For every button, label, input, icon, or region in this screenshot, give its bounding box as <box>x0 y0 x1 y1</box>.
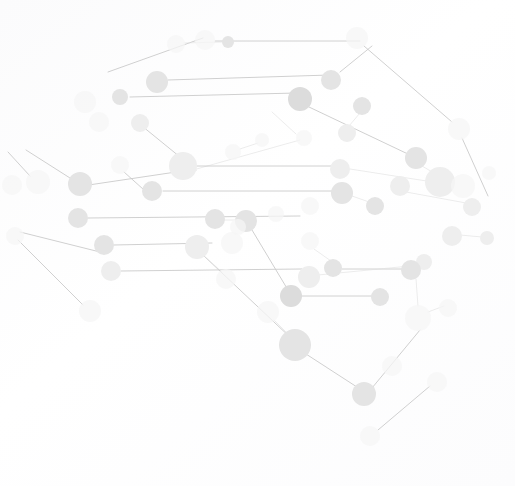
network-node <box>401 260 421 280</box>
network-node <box>26 170 50 194</box>
network-node <box>280 285 302 307</box>
network-edge <box>18 240 83 305</box>
node-layer <box>2 27 496 446</box>
network-node <box>448 118 470 140</box>
network-node <box>185 235 209 259</box>
network-node <box>221 232 243 254</box>
network-edge <box>314 249 331 261</box>
network-node <box>89 112 109 132</box>
network-node <box>425 167 455 197</box>
network-edge <box>306 354 360 389</box>
network-node <box>390 176 410 196</box>
network-edge <box>121 269 302 271</box>
network-node <box>480 231 494 245</box>
network-node <box>68 172 92 196</box>
network-node <box>324 259 342 277</box>
network-node <box>352 382 376 406</box>
network-node <box>371 288 389 306</box>
network-edge <box>340 46 372 72</box>
network-node <box>2 175 22 195</box>
network-node <box>321 70 341 90</box>
network-node <box>439 299 457 317</box>
brain-network-svg <box>0 0 515 486</box>
network-node <box>101 261 121 281</box>
network-node <box>288 87 312 111</box>
network-node <box>366 197 384 215</box>
network-edge <box>20 232 100 252</box>
network-edge <box>240 143 258 149</box>
network-node <box>230 219 246 235</box>
network-node <box>405 305 431 331</box>
network-node <box>146 71 168 93</box>
network-node <box>427 372 447 392</box>
network-edge <box>168 75 330 80</box>
network-node <box>331 182 353 204</box>
network-node <box>301 197 319 215</box>
network-edge <box>8 152 30 176</box>
network-node <box>346 27 368 49</box>
network-edge <box>130 93 297 97</box>
network-node <box>111 156 129 174</box>
network-edge <box>88 216 300 218</box>
network-node <box>169 152 197 180</box>
network-node <box>79 300 101 322</box>
network-node <box>205 209 225 229</box>
network-node <box>442 226 462 246</box>
network-edge <box>272 112 296 134</box>
network-edge <box>203 255 222 272</box>
network-node <box>482 166 496 180</box>
network-node <box>225 144 241 160</box>
network-node <box>405 147 427 169</box>
network-node <box>279 329 311 361</box>
digital-brain-graphic <box>0 0 515 486</box>
network-node <box>360 426 380 446</box>
network-edge <box>378 386 430 430</box>
network-node <box>301 232 319 250</box>
network-node <box>222 36 234 48</box>
network-node <box>338 124 356 142</box>
network-node <box>68 208 88 228</box>
network-edge <box>364 46 452 122</box>
network-edge <box>460 235 482 237</box>
network-node <box>257 301 279 323</box>
network-node <box>6 227 24 245</box>
network-node <box>74 91 96 113</box>
network-node <box>94 235 114 255</box>
network-edge <box>252 230 288 290</box>
network-node <box>112 89 128 105</box>
network-node <box>330 159 350 179</box>
network-node <box>216 269 236 289</box>
network-node <box>382 356 402 376</box>
network-node <box>353 97 371 115</box>
network-node <box>463 198 481 216</box>
network-edge <box>204 256 292 339</box>
network-edge <box>416 279 418 306</box>
network-node <box>296 130 312 146</box>
network-node <box>298 266 320 288</box>
network-node <box>451 174 475 198</box>
network-node <box>268 206 284 222</box>
network-node <box>167 35 185 53</box>
network-edge <box>349 113 360 126</box>
network-node <box>131 114 149 132</box>
network-node <box>142 181 162 201</box>
network-node <box>255 133 269 147</box>
network-node <box>195 30 215 50</box>
network-edge <box>82 172 176 186</box>
